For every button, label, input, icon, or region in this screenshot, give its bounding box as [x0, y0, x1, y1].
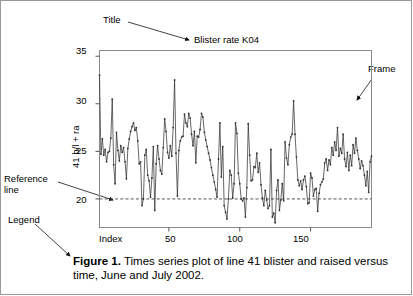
figure-caption-bold: Figure 1.	[73, 255, 121, 267]
figure-caption: Figure 1. Times series plot of line 41 b…	[73, 254, 403, 282]
figure-caption-text: Times series plot of line 41 blister and…	[73, 255, 388, 281]
time-series-plot	[0, 0, 413, 296]
